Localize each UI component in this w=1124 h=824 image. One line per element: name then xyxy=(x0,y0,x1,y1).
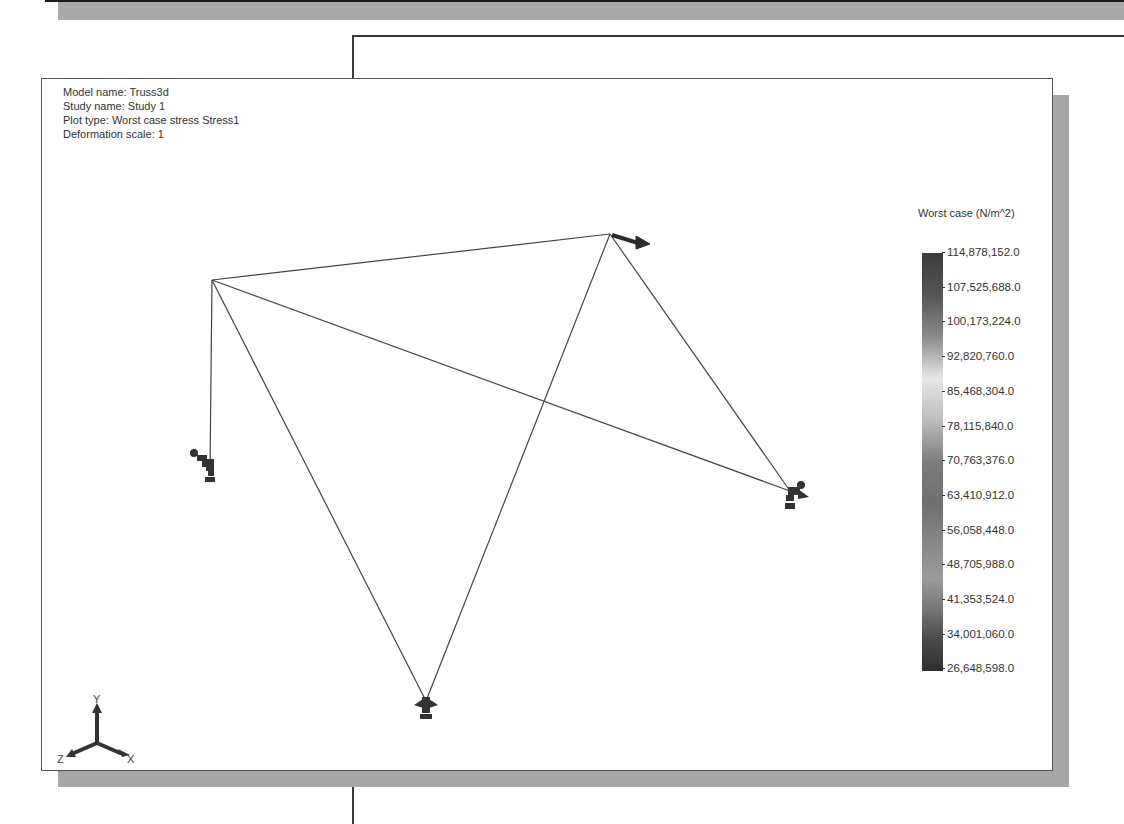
legend-tick: 114,878,152.0 xyxy=(942,246,1020,260)
legend-tick: 41,353,524.0 xyxy=(942,593,1014,607)
triad-y-label: Y xyxy=(93,693,101,705)
legend-tick: 48,705,988.0 xyxy=(942,558,1014,572)
load-arrow-icon xyxy=(612,235,650,249)
member-a-c[interactable] xyxy=(210,280,212,471)
truss-model-view[interactable] xyxy=(42,79,1052,770)
legend-tick: 34,001,060.0 xyxy=(942,628,1014,642)
stress-plot-window[interactable]: Model name: Truss3d Study name: Study 1 … xyxy=(41,78,1053,771)
member-a-e[interactable] xyxy=(212,280,790,491)
axis-triad-icon: Y Z X xyxy=(52,691,142,771)
fixture-icon xyxy=(414,697,438,719)
legend-tick: 56,058,448.0 xyxy=(942,524,1014,538)
triad-x-label: X xyxy=(127,753,135,765)
fixture-icon xyxy=(190,449,215,482)
legend-tick: 100,173,224.0 xyxy=(942,315,1021,329)
member-b-d[interactable] xyxy=(426,234,610,701)
legend-tick: 70,763,376.0 xyxy=(942,454,1014,468)
background-window-top-edge xyxy=(352,35,1124,37)
triad-z-label: Z xyxy=(57,753,64,765)
top-window-shadow xyxy=(58,2,1124,20)
member-a-b[interactable] xyxy=(212,234,610,280)
legend-tick: 26,648,598.0 xyxy=(942,662,1014,676)
legend-tick: 63,410,912.0 xyxy=(942,489,1014,503)
member-a-d[interactable] xyxy=(212,280,426,701)
legend-title: Worst case (N/m^2) xyxy=(918,207,1015,219)
legend-color-bar xyxy=(922,253,943,671)
fixture-icon xyxy=(785,481,809,509)
legend-tick: 85,468,304.0 xyxy=(942,385,1014,399)
member-b-e[interactable] xyxy=(610,234,790,491)
legend-tick: 107,525,688.0 xyxy=(942,281,1021,295)
truss-members xyxy=(210,234,790,701)
legend-tick: 92,820,760.0 xyxy=(942,350,1014,364)
legend-tick: 78,115,840.0 xyxy=(942,420,1013,434)
